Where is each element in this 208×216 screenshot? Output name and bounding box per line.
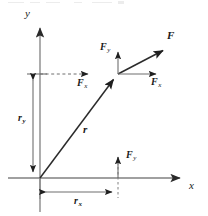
component-Fy-bottom-label: Fy xyxy=(126,150,136,162)
component-Fy-top-label: Fy xyxy=(100,42,110,54)
component-Fx-right-label: Fx xyxy=(151,77,161,89)
component-Fx-dashed-base: F xyxy=(77,77,84,88)
dimension-rx-sub: x xyxy=(78,200,82,208)
component-Fy-bottom-sub: y xyxy=(133,154,137,162)
vector-F xyxy=(118,51,163,75)
component-Fy-top-base: F xyxy=(100,41,107,52)
x-axis-label: x xyxy=(189,180,194,191)
component-Fy-top-sub: y xyxy=(107,46,111,54)
vector-r xyxy=(40,80,114,179)
dimension-ry-label: ry xyxy=(18,113,26,125)
vector-diagram-figure: y x F r Fx Fy Fx Fy ry rx xyxy=(0,0,208,216)
component-Fx-right-sub: x xyxy=(158,81,162,89)
y-axis-label: y xyxy=(25,8,30,19)
dimension-ry-sub: y xyxy=(22,117,26,125)
component-Fx-dashed-sub: x xyxy=(84,82,88,90)
component-Fx-right-base: F xyxy=(151,76,158,87)
component-Fx-dashed-label: Fx xyxy=(77,78,87,90)
diagram-canvas xyxy=(0,0,208,216)
vector-F-label: F xyxy=(167,30,174,41)
component-Fy-bottom-base: F xyxy=(126,149,133,160)
vector-r-label: r xyxy=(83,124,87,135)
dimension-rx-label: rx xyxy=(74,196,82,208)
